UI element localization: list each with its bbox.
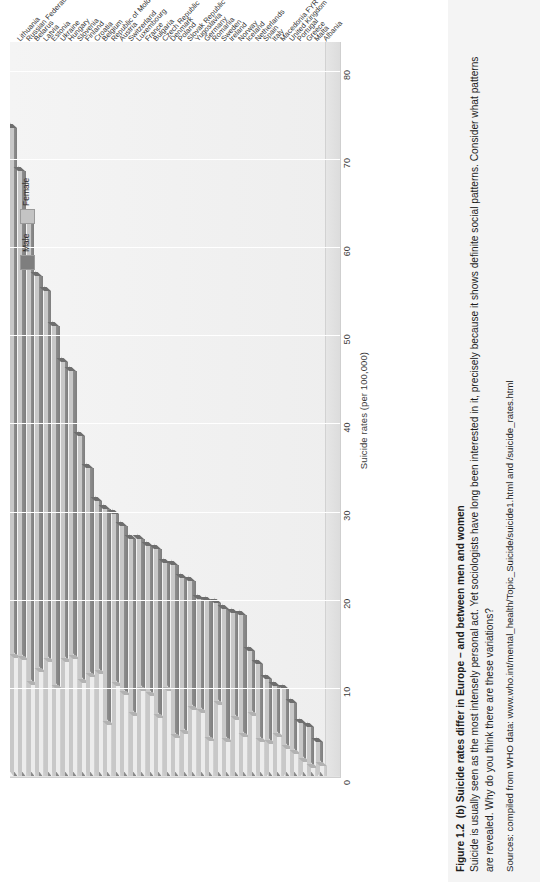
caption-title: (b) Suicide rates differ in Europe – and… bbox=[455, 505, 466, 818]
gridline bbox=[10, 71, 340, 72]
caption-sources: Sources: compiled from WHO data: www.who… bbox=[503, 10, 517, 872]
bar-top bbox=[175, 733, 179, 777]
bar-top bbox=[226, 736, 230, 777]
bar-top bbox=[73, 653, 77, 777]
bar-cap bbox=[10, 124, 17, 128]
gridline bbox=[10, 776, 340, 777]
bar-top bbox=[192, 704, 196, 777]
bar-top bbox=[209, 735, 213, 777]
figure-caption: Figure 1.2 (b) Suicide rates differ in E… bbox=[448, 0, 540, 882]
bar-top bbox=[158, 712, 162, 777]
scanned-page: Suicide rates (per 100,000) 010203040506… bbox=[0, 0, 548, 882]
chart-legend: MaleFemale bbox=[20, 130, 70, 270]
gridline bbox=[10, 335, 340, 336]
figure-chart: Suicide rates (per 100,000) 010203040506… bbox=[0, 0, 430, 882]
bar-top bbox=[243, 732, 247, 777]
caption-title-line: Figure 1.2 (b) Suicide rates differ in E… bbox=[454, 10, 468, 872]
bar-top bbox=[316, 736, 320, 777]
page-content: Suicide rates (per 100,000) 010203040506… bbox=[0, 0, 548, 882]
bar-top bbox=[141, 685, 145, 777]
gridline bbox=[10, 688, 340, 689]
category-labels: LithuaniaRussian FederationBelarusLatvia… bbox=[10, 0, 340, 39]
axis-tick-label: 70 bbox=[342, 158, 352, 168]
bar-top bbox=[39, 666, 43, 777]
bar-top bbox=[22, 654, 26, 777]
gridline bbox=[10, 512, 340, 513]
axis-tick-label: 40 bbox=[342, 422, 352, 432]
bar-top bbox=[252, 710, 256, 777]
axis-tick-label: 80 bbox=[342, 70, 352, 80]
bar-top bbox=[277, 732, 281, 777]
legend-label: Male bbox=[21, 234, 31, 252]
gridline bbox=[10, 424, 340, 425]
axis-title-y: Suicide rates (per 100,000) bbox=[358, 43, 369, 778]
axis-tick-label: 10 bbox=[342, 687, 352, 697]
bar-top bbox=[107, 719, 111, 777]
caption-label: Figure 1.2 bbox=[455, 824, 466, 872]
caption-body-line-2: are revealed. Why do you think there are… bbox=[483, 10, 497, 872]
legend-swatch bbox=[20, 255, 35, 270]
legend-label: Female bbox=[21, 178, 31, 206]
bar-top bbox=[299, 718, 303, 777]
bar-top bbox=[265, 673, 269, 777]
axis-tick-label: 50 bbox=[342, 334, 352, 344]
axis-tick-label: 0 bbox=[342, 780, 352, 785]
legend-swatch bbox=[20, 209, 35, 224]
caption-body-line-1: Suicide is usually seen as the most inte… bbox=[468, 10, 482, 872]
gridline bbox=[10, 600, 340, 601]
bar-top bbox=[260, 736, 264, 777]
axis-tick-label: 30 bbox=[342, 511, 352, 521]
plot-wrapper: Suicide rates (per 100,000) 010203040506… bbox=[10, 40, 362, 830]
bar-top bbox=[56, 683, 60, 777]
axis-tick-label: 20 bbox=[342, 599, 352, 609]
bar-top bbox=[124, 689, 128, 777]
axis-tick-label: 60 bbox=[342, 246, 352, 256]
bar-top bbox=[282, 683, 286, 777]
axis-ticks-y: 01020304050607080 bbox=[340, 43, 356, 778]
